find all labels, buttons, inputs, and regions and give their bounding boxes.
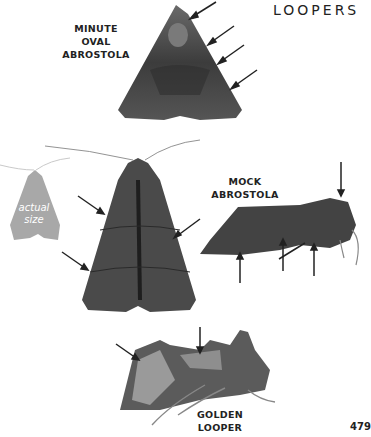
species-label-golden-looper: GOLDEN LOOPER (190, 408, 250, 434)
species-name-line2: LOOPER (190, 421, 250, 434)
page-number: 479 (350, 421, 371, 432)
arrows-golden-looper (0, 0, 371, 437)
species-name-line1: GOLDEN (190, 408, 250, 421)
